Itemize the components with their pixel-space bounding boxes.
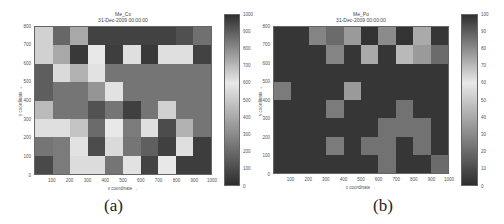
- y-tick-label: 700: [252, 42, 270, 47]
- heatmap-cell: [309, 27, 326, 45]
- heatmap-cell: [274, 118, 291, 136]
- heatmap-cell: [291, 155, 308, 173]
- heatmap-cell: [361, 118, 378, 136]
- heatmap-cell: [274, 155, 291, 173]
- heatmap-cell: [326, 137, 343, 155]
- heatmap-cell: [344, 137, 361, 155]
- heatmap-cell: [431, 45, 448, 63]
- heatmap-cell: [361, 82, 378, 100]
- chart-title-b: Me_Po 31-Dec-2009 00:00:00: [273, 11, 449, 23]
- heatmap-cell: [378, 82, 395, 100]
- heatmap-cell: [413, 82, 430, 100]
- heatmap-cell: [378, 64, 395, 82]
- heatmap-cell: [378, 137, 395, 155]
- heatmap-cell: [413, 45, 430, 63]
- heatmap-cell: [396, 137, 413, 155]
- x-tick-label: 1000: [439, 177, 459, 182]
- heatmap-cell: [274, 82, 291, 100]
- heatmap-cell: [431, 100, 448, 118]
- colorbar-tick-label: 50: [481, 98, 486, 103]
- colorbar-tick-label: 70: [481, 63, 486, 68]
- heatmap-cell: [396, 27, 413, 45]
- colorbar-tick-label: 30: [481, 132, 486, 137]
- heatmap-cell: [396, 45, 413, 63]
- colorbar-tick-label: 60: [481, 80, 486, 85]
- x-axis-label-b: x coordinate →: [273, 185, 449, 190]
- heatmap-b: [273, 26, 449, 174]
- colorbar-tick-label: 40: [481, 115, 486, 120]
- heatmap-cell: [396, 82, 413, 100]
- heatmap-cell: [344, 118, 361, 136]
- heatmap-cell: [431, 27, 448, 45]
- y-tick-label: 800: [252, 24, 270, 29]
- heatmap-cell: [361, 64, 378, 82]
- heatmap-cell: [413, 118, 430, 136]
- heatmap-cell: [431, 155, 448, 173]
- colorbar-tick-label: 10: [481, 166, 486, 171]
- heatmap-cell: [344, 100, 361, 118]
- heatmap-cell: [309, 155, 326, 173]
- heatmap-cell: [344, 64, 361, 82]
- heatmap-cell: [361, 137, 378, 155]
- heatmap-cell: [309, 45, 326, 63]
- colorbar-tick-label: 0: [481, 184, 484, 189]
- heatmap-cell: [361, 27, 378, 45]
- heatmap-cell: [361, 45, 378, 63]
- heatmap-cell: [291, 100, 308, 118]
- colorbar-tick-label: 20: [481, 149, 486, 154]
- heatmap-cell: [378, 45, 395, 63]
- subtitle-text: 31-Dec-2009 00:00:00: [273, 17, 449, 23]
- heatmap-cell: [413, 155, 430, 173]
- heatmap-cell: [291, 64, 308, 82]
- heatmap-cell: [291, 137, 308, 155]
- heatmap-cell: [291, 118, 308, 136]
- heatmap-cell: [361, 100, 378, 118]
- heatmap-cell: [396, 100, 413, 118]
- heatmap-cell: [274, 27, 291, 45]
- colorbar-tick-label: 90: [481, 29, 486, 34]
- heatmap-cell: [309, 118, 326, 136]
- heatmap-cell: [326, 82, 343, 100]
- heatmap-cell: [431, 82, 448, 100]
- caption-b: (b): [373, 196, 393, 216]
- heatmap-cell: [413, 100, 430, 118]
- heatmap-cell: [291, 45, 308, 63]
- heatmap-cell: [431, 118, 448, 136]
- heatmap-cell: [326, 100, 343, 118]
- heatmap-cell: [326, 64, 343, 82]
- heatmap-cell: [396, 155, 413, 173]
- heatmap-cell: [326, 155, 343, 173]
- colorbar-b: [461, 14, 478, 186]
- heatmap-cell: [344, 45, 361, 63]
- heatmap-cell: [326, 118, 343, 136]
- heatmap-cell: [274, 45, 291, 63]
- heatmap-cell: [378, 27, 395, 45]
- heatmap-cell: [326, 45, 343, 63]
- heatmap-cell: [378, 100, 395, 118]
- heatmap-cell: [431, 137, 448, 155]
- heatmap-cell: [396, 64, 413, 82]
- heatmap-cell: [413, 64, 430, 82]
- heatmap-cell: [309, 137, 326, 155]
- heatmap-cell: [274, 100, 291, 118]
- heatmap-cell: [309, 64, 326, 82]
- heatmap-cell: [361, 155, 378, 173]
- heatmap-cell: [344, 155, 361, 173]
- heatmap-cell: [396, 118, 413, 136]
- heatmap-cell: [431, 64, 448, 82]
- heatmap-cell: [309, 100, 326, 118]
- panel-b: Me_Po 31-Dec-2009 00:00:00 0100200300400…: [0, 0, 252, 224]
- heatmap-cell: [274, 64, 291, 82]
- heatmap-cell: [378, 118, 395, 136]
- heatmap-cell: [326, 27, 343, 45]
- y-tick-label: 100: [252, 153, 270, 158]
- colorbar-tick-label: 100: [481, 12, 489, 17]
- heatmap-cell: [378, 155, 395, 173]
- heatmap-cell: [291, 82, 308, 100]
- y-axis-label-b: y coordinate →: [258, 86, 263, 116]
- heatmap-cell: [413, 137, 430, 155]
- heatmap-cell: [344, 82, 361, 100]
- y-tick-label: 200: [252, 135, 270, 140]
- y-tick-label: 0: [252, 172, 270, 177]
- heatmap-cell: [413, 27, 430, 45]
